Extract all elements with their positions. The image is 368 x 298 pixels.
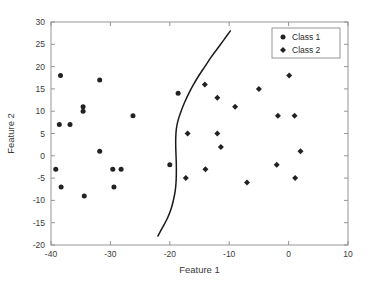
data-point-diamond <box>286 73 292 79</box>
data-point-diamond <box>202 166 208 172</box>
y-tick-label: -20 <box>33 240 46 250</box>
x-tick-label: 0 <box>286 249 291 259</box>
legend-label: Class 2 <box>292 45 321 55</box>
data-point-circle <box>81 109 86 114</box>
y-tick-label: 20 <box>36 62 46 72</box>
data-point-circle <box>58 73 63 78</box>
x-tick-label: -40 <box>45 249 58 259</box>
legend: Class 1Class 2 <box>272 28 340 58</box>
data-point-circle <box>110 167 115 172</box>
data-point-circle <box>97 149 102 154</box>
data-point-diamond <box>214 95 220 101</box>
data-point-circle <box>119 167 124 172</box>
data-point-circle <box>57 122 62 127</box>
data-point-diamond <box>183 175 189 181</box>
x-tick-label: -20 <box>164 249 177 259</box>
data-point-diamond <box>202 81 208 87</box>
y-tick-label: 25 <box>36 39 46 49</box>
data-point-circle <box>68 122 73 127</box>
y-tick-label: 15 <box>36 84 46 94</box>
x-tick-label: -30 <box>104 249 117 259</box>
data-point-circle <box>97 77 102 82</box>
x-axis-title: Feature 1 <box>179 264 220 275</box>
series-class-2 <box>183 73 304 186</box>
data-point-diamond <box>218 144 224 150</box>
data-point-diamond <box>214 131 220 137</box>
data-point-circle <box>59 185 64 190</box>
data-point-diamond <box>297 148 303 154</box>
series-class-1 <box>53 73 180 198</box>
y-tick-label: -10 <box>33 195 46 205</box>
data-point-diamond <box>292 175 298 181</box>
x-tick-label: -10 <box>223 249 236 259</box>
y-tick-label: 5 <box>40 129 45 139</box>
y-tick-label: 0 <box>40 151 45 161</box>
y-tick-label: -15 <box>33 218 46 228</box>
data-point-diamond <box>232 104 238 110</box>
y-tick-label: -5 <box>37 173 45 183</box>
data-point-diamond <box>185 131 191 137</box>
y-axis-title: Feature 2 <box>5 113 16 154</box>
legend-marker-circle <box>281 35 286 40</box>
data-point-diamond <box>292 113 298 119</box>
data-point-circle <box>111 185 116 190</box>
y-tick-label: 30 <box>36 17 46 27</box>
data-point-circle <box>82 193 87 198</box>
y-tick-label: 10 <box>36 106 46 116</box>
data-point-circle <box>176 91 181 96</box>
data-point-circle <box>167 162 172 167</box>
data-point-diamond <box>244 180 250 186</box>
x-tick-label: 10 <box>343 249 353 259</box>
data-point-circle <box>130 113 135 118</box>
data-point-diamond <box>274 162 280 168</box>
scatter-plot-figure: -40-30-20-10010-20-15-10-5051015202530Fe… <box>0 0 368 298</box>
data-point-circle <box>53 167 58 172</box>
legend-label: Class 1 <box>292 32 321 42</box>
data-point-diamond <box>256 86 262 92</box>
data-point-circle <box>81 104 86 109</box>
data-point-diamond <box>275 113 281 119</box>
